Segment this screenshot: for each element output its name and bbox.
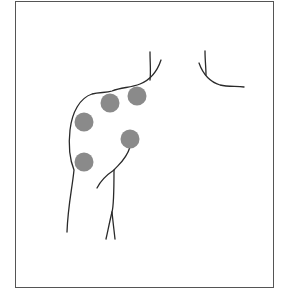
treatment-point [128,87,147,106]
inner-arm-line-2 [112,212,115,239]
treatment-point [101,94,120,113]
shoulder-diagram [0,0,284,304]
shoulder-outline [67,60,161,232]
neck-line-right [205,51,206,75]
treatment-point [75,113,94,132]
treatment-point [121,130,140,149]
treatment-point [75,153,94,172]
inner-arm-line-1 [106,170,114,239]
